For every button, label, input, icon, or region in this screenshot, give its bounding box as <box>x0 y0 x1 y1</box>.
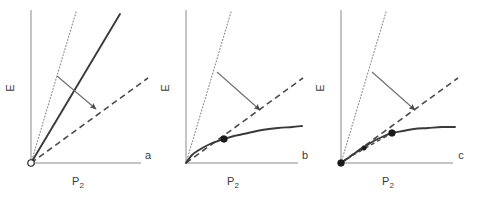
solid-response-line-a <box>31 14 120 163</box>
y-axis-label-b: E <box>159 84 171 91</box>
solid-sigmoid-curve-c <box>341 127 455 163</box>
dotted-reference-line-a <box>31 12 76 163</box>
inflection-marker-c <box>362 146 366 150</box>
panel-a: EP2a <box>4 10 152 190</box>
origin-filled-marker-c <box>338 160 345 167</box>
origin-open-marker-a <box>28 160 34 166</box>
dashed-asymptote-line-b <box>186 78 303 163</box>
x-axis-label-c: P2 <box>382 175 394 190</box>
panel-letter-a: a <box>145 149 152 161</box>
x-axis-label-subscript-c: 2 <box>389 181 394 190</box>
annotation-arrow-c <box>372 72 415 110</box>
y-axis-label-c: E <box>314 84 326 91</box>
panel-letter-c: c <box>458 149 464 161</box>
panel-letter-b: b <box>302 149 308 161</box>
tangency-marker-c <box>389 130 396 137</box>
x-axis-label-a: P2 <box>72 175 84 190</box>
tangency-marker-b <box>221 136 228 143</box>
figure-panel-group: EP2aEP2bEP2c <box>0 0 485 200</box>
solid-saturating-curve-b <box>186 126 302 163</box>
annotation-arrow-a <box>57 76 96 109</box>
x-axis-label-b: P2 <box>227 175 239 190</box>
annotation-arrow-b <box>217 72 260 110</box>
y-axis-label-a: E <box>4 84 16 91</box>
panel-b: EP2b <box>159 10 308 190</box>
panels-root: EP2aEP2bEP2c <box>4 10 464 190</box>
dashed-asymptote-line-a <box>31 78 148 163</box>
x-axis-label-subscript-b: 2 <box>234 181 239 190</box>
figure-canvas: EP2aEP2bEP2c <box>0 0 485 200</box>
x-axis-label-subscript-a: 2 <box>79 181 84 190</box>
panel-c: EP2c <box>314 10 464 190</box>
